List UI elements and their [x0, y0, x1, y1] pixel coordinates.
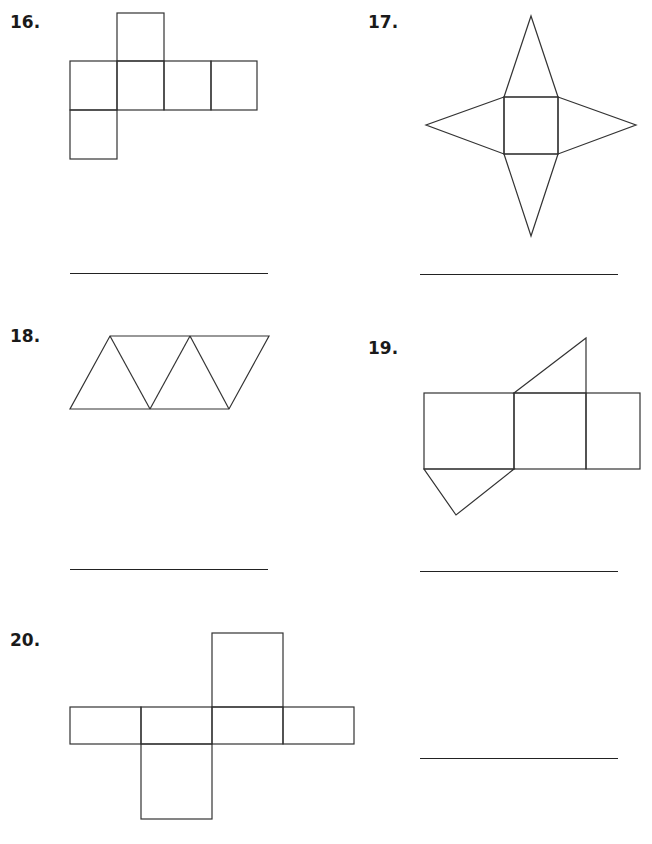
answer-line-16[interactable]	[70, 273, 268, 274]
problem-18-tetrahedron-net	[70, 336, 269, 409]
problem-20-box-net	[70, 633, 354, 819]
answer-line-20[interactable]	[420, 758, 618, 759]
answer-line-17[interactable]	[420, 274, 618, 275]
answer-line-19[interactable]	[420, 571, 618, 572]
problem-16-cube-net	[70, 13, 257, 159]
problem-19-prism-net	[424, 338, 640, 515]
answer-line-18[interactable]	[70, 569, 268, 570]
nets-canvas	[0, 0, 652, 844]
problem-17-pyramid-net	[426, 16, 636, 236]
